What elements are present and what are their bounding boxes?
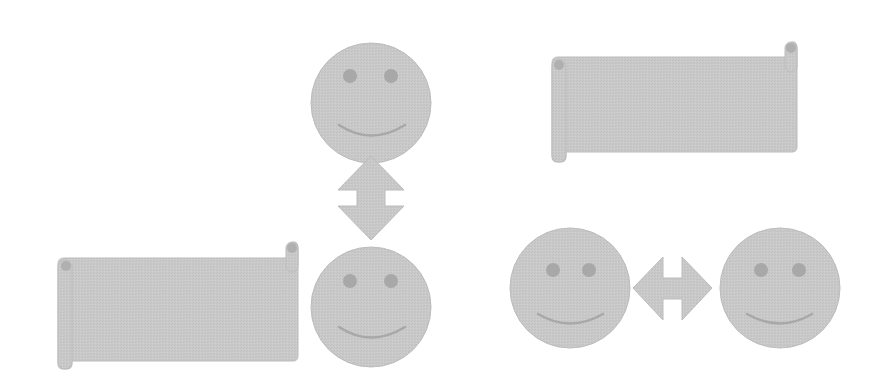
up-down-arrow-icon [338, 156, 404, 240]
left-eye [343, 274, 357, 288]
smiley-face-bottom-right[interactable] [720, 228, 840, 348]
face-circle [311, 43, 431, 163]
right-eye [384, 274, 398, 288]
left-eye [343, 69, 357, 83]
right-eye [582, 263, 596, 277]
scroll-roll-left [58, 260, 72, 369]
smiley-face-top[interactable] [311, 43, 431, 163]
left-right-arrow[interactable] [633, 257, 712, 320]
smiley-face-bottom-left[interactable] [510, 228, 630, 348]
right-eye [384, 69, 398, 83]
left-eye [754, 263, 768, 277]
left-right-arrow-icon [633, 257, 712, 320]
right-eye [792, 263, 806, 277]
scroll-curl-left [61, 261, 71, 271]
face-circle [311, 247, 431, 367]
scroll-curl-right [786, 43, 796, 53]
scroll-banner-left[interactable] [58, 242, 298, 369]
diagram-canvas [0, 0, 882, 381]
scroll-curl-right [287, 243, 297, 253]
scroll-roll-left [552, 59, 566, 162]
smiley-face-bottom-center[interactable] [311, 247, 431, 367]
scroll-curl-left [554, 60, 564, 70]
face-circle [720, 228, 840, 348]
scroll-banner-top-right[interactable] [552, 42, 797, 162]
face-circle [510, 228, 630, 348]
scroll-body [552, 42, 797, 162]
scroll-body [58, 242, 298, 369]
up-down-arrow[interactable] [338, 156, 404, 240]
left-eye [546, 263, 560, 277]
